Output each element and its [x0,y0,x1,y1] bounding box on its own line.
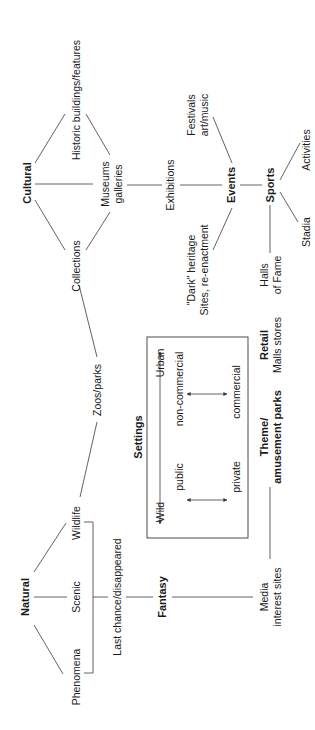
node-activities: Activities [300,129,312,170]
edge-sports-stadia [280,192,298,222]
settings-non-commercial: non-commercial [173,352,185,427]
settings-public: public [173,463,185,490]
node-scenic: Scenic [70,581,82,613]
node-last-chance: Last chance/disappeared [111,538,123,655]
tourism-attractions-diagram: Cultural Historic buildings/features Mus… [0,0,315,730]
node-collections: Collections [70,240,82,291]
node-theme-line1: Theme/ [258,418,270,457]
node-halls-line1: Halls [258,263,270,286]
node-fantasy: Fantasy [156,575,168,617]
node-festivals-line1: Festivals [185,94,197,135]
node-wildlife: Wildlife [70,506,82,540]
edge-natural-phenomena [34,625,63,674]
settings-urban: Urban [154,349,166,378]
edge-historic-museums [86,114,110,155]
node-exhibitions: Exhibitions [164,160,176,211]
edge-cultural-historic [35,114,65,163]
node-dark-heritage-line2: Sites, re-enactment [198,224,210,315]
node-stadia: Stadia [300,217,312,247]
node-cultural: Cultural [21,162,33,204]
edge-zoos-wildlife [80,422,97,497]
node-natural: Natural [19,578,31,616]
node-historic: Historic buildings/features [70,40,82,160]
node-festivals-line2: art/music [198,94,210,137]
node-halls-line2: of Fame [271,256,283,295]
settings-title: Settings [132,415,144,458]
edge-dark-events [213,208,232,250]
node-dark-heritage-line1: "Dark" heritage [185,235,197,306]
edge-cultural-collections [35,200,65,250]
settings-private: private [230,461,242,493]
node-media-line1: Media [258,583,270,612]
node-museums-line2: galleries [112,164,124,203]
node-retail-line2: Malls stores [271,317,283,373]
node-phenomena: Phenomena [70,649,82,706]
settings-wild: Wild [154,502,166,523]
node-theme-line2: amusement parks [271,390,283,484]
node-zoos-parks: Zoos/parks [91,364,103,416]
edge-collections-zoos [79,285,97,357]
node-media-line2: interest sites [271,568,283,627]
node-sports: Sports [264,168,276,203]
node-museums-line1: Museums [99,161,111,207]
edge-collections-museums [86,212,110,250]
bracket-natural-group [84,522,93,673]
edge-sports-activities [280,143,300,180]
node-events: Events [225,167,237,203]
settings-commercial: commercial [230,365,242,419]
edge-natural-wildlife [34,523,66,572]
node-retail-line1: Retail [258,330,270,360]
labels: Cultural Historic buildings/features Mus… [19,40,312,705]
edge-festivals-events [213,117,232,163]
